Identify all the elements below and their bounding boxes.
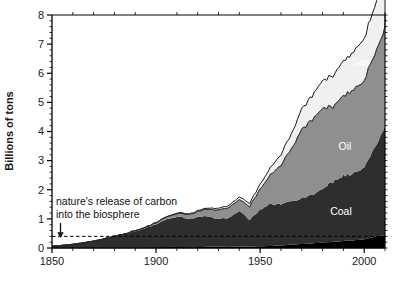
y-axis-label: Billions of tons (3, 91, 15, 170)
y-tick-label: 0 (38, 242, 44, 254)
series-label-coal: Coal (330, 205, 352, 217)
chart-container: 0123456781850190019502000 CoalOilGas Bil… (0, 0, 406, 283)
annotation-line-2: into the biosphere (56, 208, 140, 220)
y-tick-label: 4 (38, 125, 44, 137)
y-tick-label: 3 (38, 154, 44, 166)
y-tick-label: 6 (38, 67, 44, 79)
x-tick-label: 1950 (248, 255, 272, 267)
y-tick-label: 1 (38, 213, 44, 225)
y-tick-label: 5 (38, 96, 44, 108)
x-tick-label: 1900 (144, 255, 168, 267)
y-tick-label: 8 (38, 9, 44, 21)
stacked-area-chart: 0123456781850190019502000 CoalOilGas Bil… (0, 0, 406, 283)
x-tick-label: 2000 (352, 255, 376, 267)
annotation-line-1: nature's release of carbon (56, 195, 177, 207)
y-tick-label: 7 (38, 38, 44, 50)
series-label-gas: Gas (350, 56, 369, 68)
series-label-oil: Oil (339, 140, 352, 152)
x-tick-label: 1850 (40, 255, 64, 267)
y-tick-label: 2 (38, 184, 44, 196)
